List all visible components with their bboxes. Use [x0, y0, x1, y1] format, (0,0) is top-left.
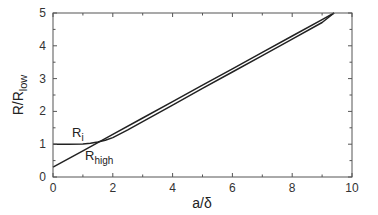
curves: [53, 13, 334, 167]
tick-labels: 0246810012345: [39, 6, 359, 195]
curve-r-high: [53, 13, 334, 167]
plot-frame: [53, 13, 352, 177]
y-tick-label: 5: [39, 6, 46, 20]
x-axis-label: a/δ: [192, 195, 212, 211]
svg-text:R/Rlow: R/Rlow: [10, 75, 29, 116]
x-tick-label: 2: [109, 181, 116, 195]
y-tick-label: 3: [39, 72, 46, 86]
y-tick-label: 4: [39, 39, 46, 53]
curve-label-r-high: Rhigh: [85, 148, 113, 166]
curve-label-r-i: Ri: [72, 125, 84, 143]
x-tick-label: 10: [345, 181, 359, 195]
x-tick-label: 4: [169, 181, 176, 195]
y-tick-label: 2: [39, 104, 46, 118]
y-axis-label: R/Rlow: [10, 75, 29, 116]
y-tick-label: 0: [39, 170, 46, 184]
x-tick-label: 0: [50, 181, 57, 195]
chart: 0246810012345 a/δ R/Rlow Ri Rhigh: [0, 0, 378, 215]
curve-r-i: [53, 13, 334, 144]
x-tick-label: 8: [289, 181, 296, 195]
axis-ticks: [53, 13, 352, 177]
y-tick-label: 1: [39, 137, 46, 151]
x-tick-label: 6: [229, 181, 236, 195]
